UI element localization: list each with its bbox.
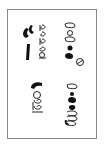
glyph-group-icon bbox=[25, 78, 51, 120]
glyph-cluster-top-left bbox=[20, 22, 54, 68]
glyph-cluster-bottom-left bbox=[25, 78, 51, 120]
glyph-group-icon bbox=[20, 22, 54, 68]
glyph-group-icon bbox=[61, 80, 89, 130]
glyph-group-icon bbox=[59, 20, 89, 72]
document-page bbox=[7, 9, 97, 139]
glyph-cluster-bottom-right bbox=[61, 80, 89, 130]
glyph-cluster-top-right bbox=[59, 20, 89, 72]
